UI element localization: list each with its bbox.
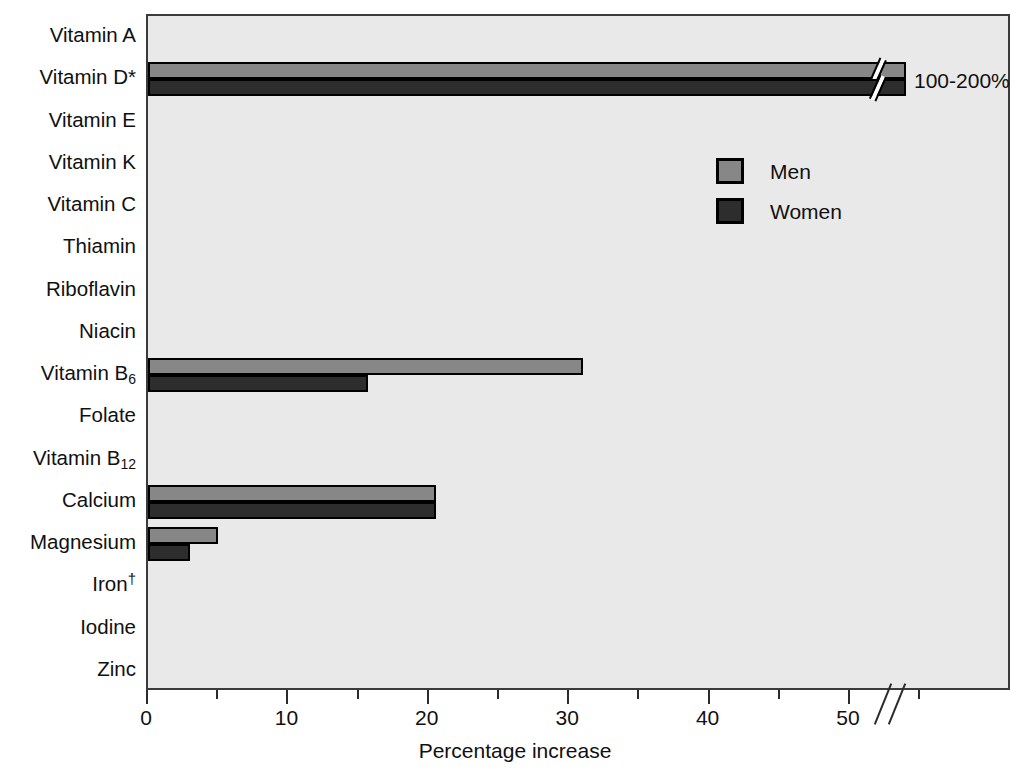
category-label: Thiamin: [0, 236, 136, 257]
plot-area: [146, 14, 1010, 690]
x-tick-label: 20: [415, 706, 438, 730]
x-tick-major: [427, 690, 429, 704]
legend-item-men: Men: [716, 151, 842, 191]
category-label: Vitamin C: [0, 194, 136, 215]
legend-item-women: Women: [716, 191, 842, 231]
x-tick-label: 0: [140, 706, 152, 730]
category-label: Vitamin B12: [0, 448, 136, 471]
category-label: Vitamin D*: [0, 67, 136, 88]
bar-women: [148, 544, 190, 561]
legend-swatch-women-icon: [716, 198, 744, 224]
category-label: Vitamin K: [0, 152, 136, 173]
category-label: Magnesium: [0, 532, 136, 553]
category-label: Folate: [0, 405, 136, 426]
x-tick-label: 10: [275, 706, 298, 730]
x-tick-major: [286, 690, 288, 704]
x-tick-minor: [357, 690, 359, 699]
category-label: Iodine: [0, 617, 136, 638]
bar-men: [148, 358, 583, 375]
vitamin-d-value-annotation: 100-200%: [914, 70, 1010, 91]
category-label: Riboflavin: [0, 279, 136, 300]
bar-chart: Vitamin AVitamin D*Vitamin EVitamin KVit…: [0, 0, 1030, 773]
bar-men: [148, 527, 218, 544]
bar-men: [148, 62, 906, 79]
x-tick-major: [708, 690, 710, 704]
category-label: Vitamin A: [0, 25, 136, 46]
category-label: Iron†: [0, 574, 136, 597]
bar-women: [148, 502, 436, 519]
x-tick-major: [567, 690, 569, 704]
category-label: Vitamin E: [0, 110, 136, 131]
x-tick-label: 50: [836, 706, 859, 730]
x-tick-label: 40: [696, 706, 719, 730]
x-tick-minor: [637, 690, 639, 699]
legend: Men Women: [716, 151, 842, 231]
bar-women: [148, 375, 368, 392]
x-axis-tick-labels: 01020304050: [0, 706, 1030, 736]
bars-layer: [148, 16, 1008, 688]
category-label: Niacin: [0, 321, 136, 342]
legend-label-women: Women: [770, 201, 842, 222]
legend-label-men: Men: [770, 161, 811, 182]
category-label: Calcium: [0, 490, 136, 511]
category-label: Vitamin B6: [0, 363, 136, 386]
x-tick-post-break: [918, 690, 920, 699]
x-tick-major: [848, 690, 850, 704]
x-tick-major: [146, 690, 148, 704]
x-tick-minor: [778, 690, 780, 699]
bar-women: [148, 79, 906, 96]
category-axis-labels: Vitamin AVitamin D*Vitamin EVitamin KVit…: [0, 14, 136, 690]
x-axis-title: Percentage increase: [0, 740, 1030, 762]
category-label: Zinc: [0, 659, 136, 680]
legend-swatch-men-icon: [716, 158, 744, 184]
x-tick-minor: [497, 690, 499, 699]
bar-men: [148, 485, 436, 502]
x-tick-minor: [216, 690, 218, 699]
x-tick-label: 30: [556, 706, 579, 730]
